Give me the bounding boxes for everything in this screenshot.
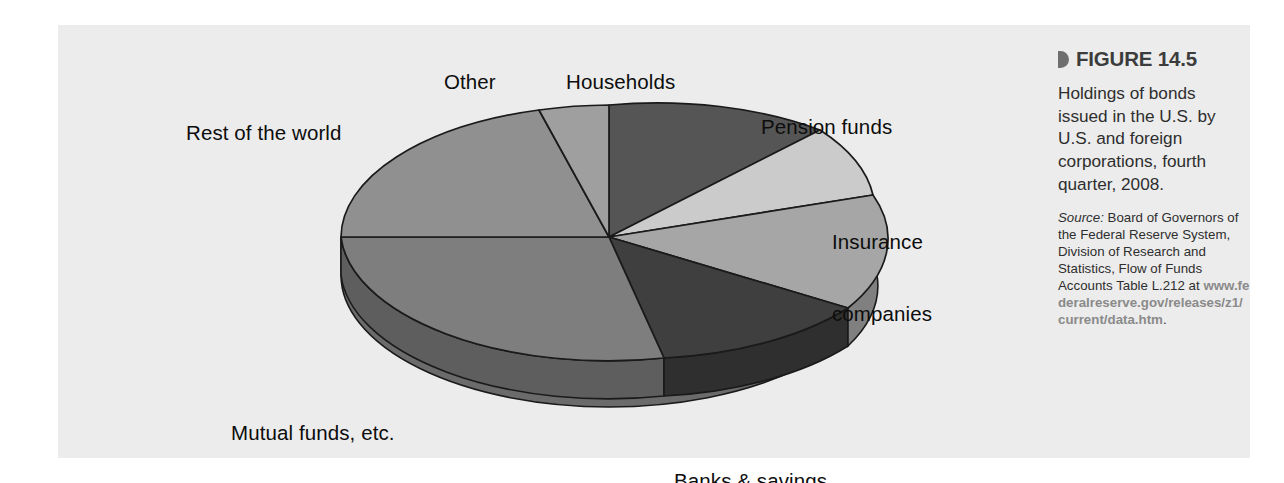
source-period: . [1163, 312, 1167, 327]
pie-label-rest-of-world: Rest of the world [186, 121, 342, 145]
pie-label-insurance-line2: companies [832, 302, 932, 326]
pie-label-mutual-funds: Mutual funds, etc. [231, 421, 395, 445]
figure-number-label: FIGURE 14.5 [1076, 47, 1197, 71]
figure-panel: Other Households Pension funds Insurance… [58, 25, 1250, 458]
pie-label-other: Other [444, 70, 496, 94]
figure-caption-column: FIGURE 14.5 Holdings of bonds issued in … [1058, 47, 1254, 329]
pie-label-pension-funds: Pension funds [761, 115, 892, 139]
pie-label-insurance-companies: Insurance companies [832, 182, 932, 374]
pie-chart-svg [58, 25, 958, 458]
figure-source-note: Source: Board of Governors of the Federa… [1058, 209, 1250, 329]
source-label: Source: [1058, 210, 1104, 225]
pie-chart: Other Households Pension funds Insurance… [58, 25, 958, 458]
pie-slices [341, 103, 888, 361]
half-disc-bullet-icon [1058, 51, 1069, 68]
pie-label-banks-line1: Banks & savings [674, 469, 827, 483]
pie-label-insurance-line1: Insurance [832, 230, 932, 254]
figure-heading: FIGURE 14.5 [1058, 47, 1254, 71]
pie-label-households: Households [566, 70, 675, 94]
figure-description: Holdings of bonds issued in the U.S. by … [1058, 82, 1246, 196]
pie-label-banks-savings: Banks & savings institutions [674, 421, 827, 483]
